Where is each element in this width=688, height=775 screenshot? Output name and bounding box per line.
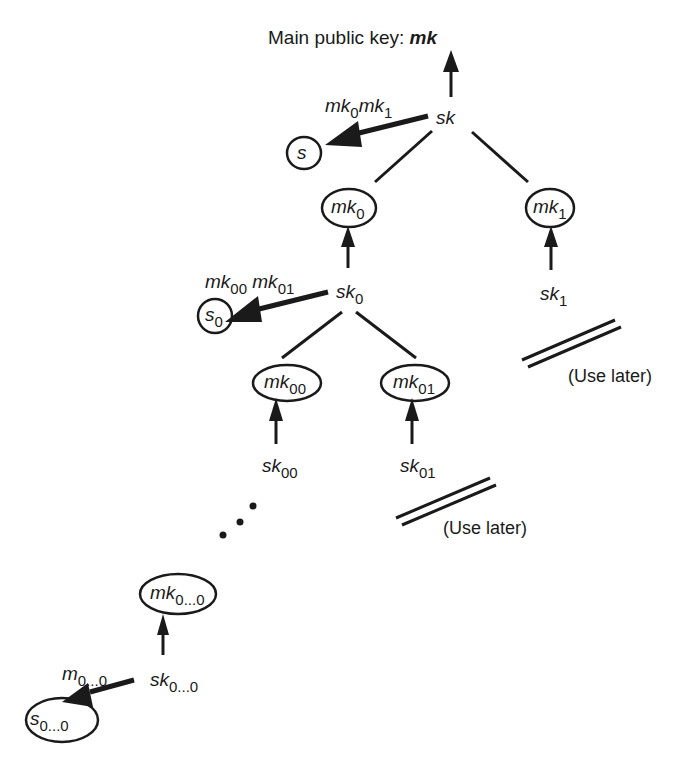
label-sub: 1 (384, 104, 392, 121)
node-s0n: s0...0 (30, 709, 69, 733)
node-mk00: mk00 (264, 372, 306, 396)
label-sub: 01 (278, 280, 295, 297)
node-mk0: mk0 (331, 197, 365, 221)
node-sub: 00 (289, 380, 306, 397)
node-mk0n: mk0...0 (150, 583, 205, 607)
label-base: mk (252, 271, 277, 292)
node-base: sk (400, 455, 419, 476)
label-s0n-input: m0...0 (62, 664, 107, 688)
node-base: mk (393, 371, 418, 392)
node-s0: s0 (205, 305, 223, 329)
label-base: mk (359, 95, 384, 116)
node-base: sk (150, 669, 169, 690)
node-mk1: mk1 (533, 197, 567, 221)
label-base: mk (325, 95, 350, 116)
node-base: mk (331, 196, 356, 217)
title-key: mk (410, 27, 437, 48)
node-base: s (30, 708, 40, 729)
label-base: mk (205, 271, 230, 292)
node-sub: 0 (356, 205, 364, 222)
node-base: sk (262, 455, 281, 476)
node-base: mk (533, 196, 558, 217)
title-prefix: Main public key: (268, 27, 410, 48)
node-sub: 00 (281, 464, 298, 481)
label-sub: 0...0 (78, 672, 107, 689)
node-base: mk (264, 371, 289, 392)
node-s-text: s (297, 142, 307, 163)
label-s0-inputs: mk00 mk01 (205, 272, 294, 296)
node-sk01: sk01 (400, 456, 436, 480)
node-base: sk (336, 281, 355, 302)
label-s-inputs: mk0mk1 (325, 96, 392, 120)
node-sub: 0...0 (40, 717, 69, 734)
use-later-note-1: (Use later) (568, 367, 652, 385)
node-sub: 1 (558, 205, 566, 222)
label-sub: 00 (230, 280, 247, 297)
node-sk00: sk00 (262, 456, 298, 480)
node-sk-text: sk (436, 107, 455, 128)
node-sk: sk (436, 108, 455, 127)
node-sk0n: sk0...0 (150, 670, 198, 694)
node-mk01: mk01 (393, 372, 435, 396)
use-later-note-2: (Use later) (443, 519, 527, 537)
node-s: s (297, 143, 307, 162)
node-sk1: sk1 (540, 284, 567, 308)
node-base: s (205, 304, 215, 325)
label-base: m (62, 663, 78, 684)
node-sub: 01 (418, 380, 435, 397)
main-public-key-title: Main public key: mk (268, 28, 437, 47)
node-sub: 01 (419, 464, 436, 481)
node-sub: 1 (559, 292, 567, 309)
node-sub: 0 (215, 313, 223, 330)
label-sub: 0 (350, 104, 358, 121)
node-sk0: sk0 (336, 282, 363, 306)
node-base: sk (540, 283, 559, 304)
node-base: mk (150, 582, 175, 603)
node-sub: 0 (355, 290, 363, 307)
node-sub: 0...0 (175, 591, 204, 608)
node-sub: 0...0 (169, 678, 198, 695)
